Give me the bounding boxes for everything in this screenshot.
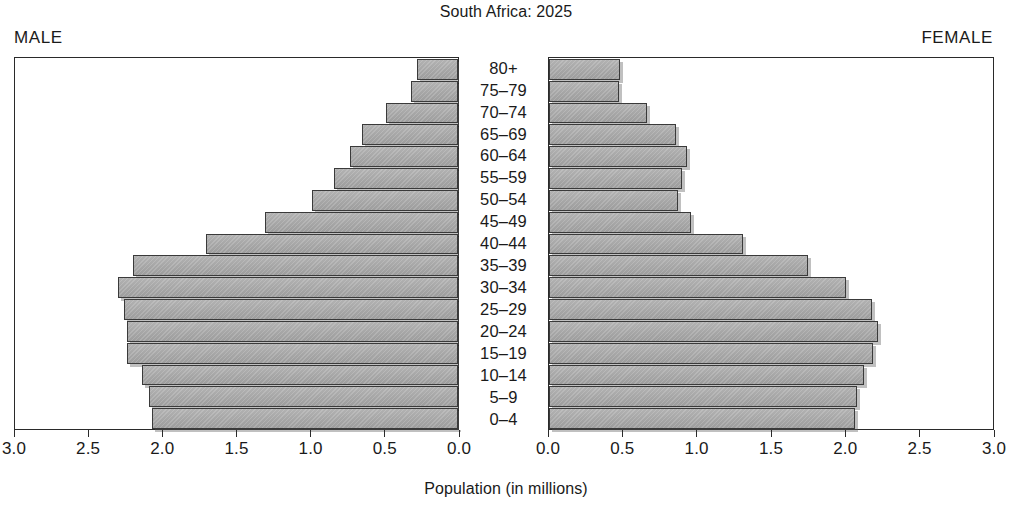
bar-female-50-54: [549, 190, 678, 211]
bar-female-80+: [549, 59, 620, 80]
bar-male-80+: [417, 59, 458, 80]
bar-male-10-14: [142, 365, 458, 386]
female-x-axis: 0.00.51.01.52.02.53.0: [548, 430, 994, 464]
axis-tick-label: 0.0: [447, 439, 471, 459]
axis-tick: [919, 430, 920, 437]
bar-male-65-69: [362, 124, 458, 145]
pyramid-row: [15, 189, 458, 211]
pyramid-row: [15, 211, 458, 233]
axis-tick: [845, 430, 846, 437]
pyramid-row: [15, 145, 458, 167]
bar-female-5-9: [549, 386, 857, 407]
pyramid-row: [549, 298, 993, 320]
bar-male-30-34: [118, 277, 458, 298]
age-group-label: 80+: [459, 57, 548, 79]
pyramid-row: [549, 385, 993, 407]
axis-tick-label: 0.5: [610, 439, 634, 459]
bar-male-70-74: [386, 103, 458, 124]
age-group-label: 30–34: [459, 276, 548, 298]
female-plot-panel: [548, 57, 994, 430]
bar-male-5-9: [149, 386, 458, 407]
axis-tick: [548, 430, 549, 437]
bar-female-15-19: [549, 343, 873, 364]
pyramid-row: [15, 58, 458, 80]
axis-tick: [696, 430, 697, 437]
pyramid-row: [15, 320, 458, 342]
pyramid-row: [15, 407, 458, 429]
bar-female-30-34: [549, 277, 846, 298]
pyramid-row: [15, 80, 458, 102]
axis-tick: [994, 430, 995, 437]
bar-female-0-4: [549, 408, 855, 429]
pyramid-row: [549, 123, 993, 145]
axis-tick-label: 2.0: [150, 439, 174, 459]
bar-male-0-4: [152, 408, 458, 429]
pyramid-row: [15, 167, 458, 189]
bar-female-20-24: [549, 321, 878, 342]
pyramid-row: [549, 145, 993, 167]
bar-female-70-74: [549, 103, 647, 124]
bar-female-40-44: [549, 234, 743, 255]
axis-tick: [88, 430, 89, 437]
axis-tick: [236, 430, 237, 437]
female-bar-rows: [549, 58, 993, 429]
bar-female-60-64: [549, 146, 687, 167]
axis-tick-label: 3.0: [2, 439, 26, 459]
bar-female-35-39: [549, 255, 808, 276]
bar-male-40-44: [206, 234, 459, 255]
age-group-label: 50–54: [459, 189, 548, 211]
age-group-label: 40–44: [459, 233, 548, 255]
bar-female-75-79: [549, 81, 619, 102]
bar-male-50-54: [312, 190, 458, 211]
pyramid-row: [15, 385, 458, 407]
x-axis-title: Population (in millions): [0, 480, 1012, 498]
pyramid-row: [549, 254, 993, 276]
axis-tick-label: 1.5: [224, 439, 248, 459]
axis-tick: [14, 430, 15, 437]
pyramid-row: [549, 407, 993, 429]
pyramid-row: [15, 298, 458, 320]
male-bar-rows: [15, 58, 458, 429]
age-group-label: 10–14: [459, 364, 548, 386]
age-group-label: 60–64: [459, 145, 548, 167]
bar-female-25-29: [549, 299, 872, 320]
pyramid-row: [549, 276, 993, 298]
age-group-label: 35–39: [459, 254, 548, 276]
bar-male-15-19: [127, 343, 458, 364]
pyramid-row: [549, 364, 993, 386]
axis-tick-label: 1.5: [759, 439, 783, 459]
pyramid-row: [549, 342, 993, 364]
male-plot-panel: [14, 57, 459, 430]
pyramid-row: [15, 233, 458, 255]
bar-female-65-69: [549, 124, 676, 145]
age-group-labels: 80+75–7970–7465–6960–6455–5950–5445–4940…: [459, 57, 548, 430]
bar-female-45-49: [549, 212, 691, 233]
pyramid-row: [15, 102, 458, 124]
axis-tick-label: 2.5: [76, 439, 100, 459]
bar-male-25-29: [124, 299, 458, 320]
male-side-caption: MALE: [14, 28, 63, 48]
age-group-label: 45–49: [459, 211, 548, 233]
bar-male-75-79: [411, 81, 458, 102]
pyramid-row: [549, 167, 993, 189]
age-group-label: 0–4: [459, 408, 548, 430]
axis-tick-label: 2.5: [908, 439, 932, 459]
axis-tick-label: 0.5: [373, 439, 397, 459]
pyramid-row: [549, 189, 993, 211]
pyramid-row: [549, 58, 993, 80]
chart-title: South Africa: 2025: [0, 3, 1012, 21]
bar-male-55-59: [334, 168, 458, 189]
bar-male-45-49: [265, 212, 458, 233]
age-group-label: 55–59: [459, 167, 548, 189]
pyramid-row: [15, 364, 458, 386]
bar-female-55-59: [549, 168, 682, 189]
pyramid-row: [549, 80, 993, 102]
female-side-caption: FEMALE: [921, 28, 993, 48]
age-group-label: 65–69: [459, 123, 548, 145]
axis-tick: [771, 430, 772, 437]
bar-male-60-64: [350, 146, 458, 167]
age-group-label: 20–24: [459, 320, 548, 342]
axis-tick: [622, 430, 623, 437]
age-group-label: 75–79: [459, 79, 548, 101]
age-group-label: 15–19: [459, 342, 548, 364]
